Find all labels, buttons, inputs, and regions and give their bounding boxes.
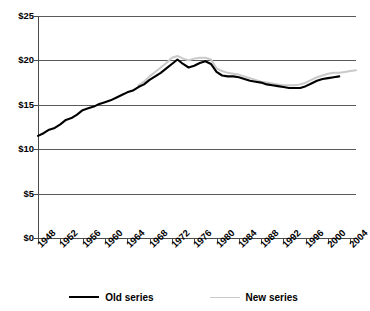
- x-axis-tick-label: 1988: [258, 227, 281, 250]
- legend-item[interactable]: New series: [210, 292, 298, 303]
- x-axis-tick-label: 1968: [147, 227, 170, 250]
- x-axis-tick-label: 2004: [347, 227, 370, 250]
- x-axis-tick-label: 1952: [57, 227, 80, 250]
- x-axis-tick-label: 1980: [214, 227, 237, 250]
- x-axis-tick-label: 1992: [280, 227, 303, 250]
- x-axis-tick-label: 1948: [35, 227, 58, 250]
- x-axis-tick-label: 1976: [191, 227, 214, 250]
- chart-legend: Old seriesNew series: [0, 288, 367, 306]
- x-axis-tick-label: 1984: [236, 227, 259, 250]
- x-axis-tick-label: 1972: [169, 227, 192, 250]
- legend-item-label: Old series: [105, 292, 153, 303]
- legend-line-swatch: [210, 297, 240, 298]
- x-axis-tick-label: 1956: [80, 227, 103, 250]
- legend-item-label: New series: [246, 292, 298, 303]
- legend-line-swatch: [69, 296, 99, 298]
- x-axis-tick-label: 1960: [102, 227, 125, 250]
- legend-item[interactable]: Old series: [69, 292, 153, 303]
- x-axis-tick-label: 1964: [124, 227, 147, 250]
- x-axis-tick-label: 2000: [325, 227, 348, 250]
- x-axis-tick-label: 1996: [303, 227, 326, 250]
